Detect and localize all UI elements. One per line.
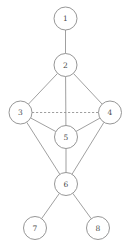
edge-2-4	[73, 73, 102, 104]
node-label-1: 1	[63, 14, 68, 23]
edge-4-5	[76, 118, 100, 131]
node-3[interactable]: 3	[9, 101, 32, 124]
graph-diagram: 12345678	[0, 0, 129, 246]
edge-3-5	[31, 118, 56, 132]
node-7[interactable]: 7	[24, 217, 47, 240]
node-1[interactable]: 1	[54, 7, 77, 30]
node-label-8: 8	[96, 224, 101, 233]
node-2[interactable]: 2	[54, 54, 77, 77]
edge-2-3	[28, 73, 57, 104]
node-label-6: 6	[64, 180, 69, 189]
edge-6-7	[42, 193, 60, 218]
node-5[interactable]: 5	[55, 126, 78, 149]
node-6[interactable]: 6	[55, 173, 78, 196]
node-4[interactable]: 4	[99, 101, 122, 124]
node-8[interactable]: 8	[87, 217, 110, 240]
node-label-3: 3	[18, 108, 23, 117]
edge-6-8	[73, 193, 91, 218]
node-label-4: 4	[108, 108, 113, 117]
edge-4-6	[72, 122, 104, 174]
node-label-5: 5	[64, 133, 69, 142]
edge-3-6	[27, 122, 60, 174]
node-label-2: 2	[63, 61, 68, 70]
node-label-7: 7	[33, 224, 38, 233]
